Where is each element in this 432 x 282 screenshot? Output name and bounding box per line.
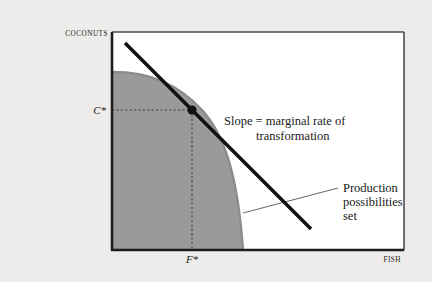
y-tick-label-cstar: C* [93,104,106,116]
figure-container: COCONUTS FISH C* F* Slope = marginal rat… [0,0,432,282]
tangency-point-marker [187,105,196,114]
production-set-annotation-line1: Production [343,181,399,195]
x-axis-label: FISH [383,256,401,264]
ppf-diagram: COCONUTS FISH C* F* Slope = marginal rat… [0,0,432,282]
slope-annotation-line1: Slope = marginal rate of [224,114,346,128]
x-tick-label-fstar: F* [185,253,199,265]
slope-annotation-line2: transformation [256,129,330,143]
y-axis-label: COCONUTS [65,30,108,38]
production-set-annotation-line2: possibilities [343,195,403,209]
production-set-annotation-line3: set [343,209,357,223]
